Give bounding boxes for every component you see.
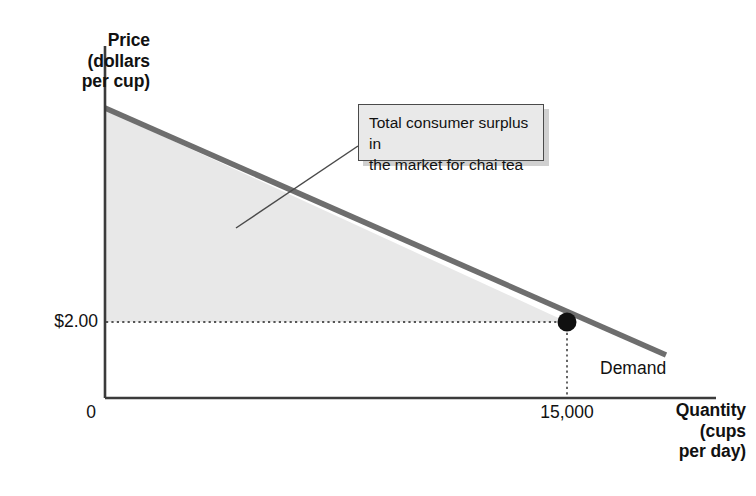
y-axis-tick-label-price: $2.00	[10, 311, 98, 332]
consumer-surplus-callout-box: Total consumer surplus in the market for…	[358, 104, 544, 161]
y-axis-title: Price (dollars per cup)	[0, 30, 150, 92]
demand-curve-label: Demand	[600, 358, 666, 379]
x-axis-title: Quantity (cups per day)	[560, 400, 746, 462]
axis-origin-label: 0	[76, 402, 106, 423]
consumer-surplus-figure: Price (dollars per cup) $2.00 0 15,000 Q…	[0, 0, 756, 496]
consumer-surplus-callout-text: Total consumer surplus in the market for…	[369, 113, 541, 176]
equilibrium-point-marker	[558, 313, 577, 332]
